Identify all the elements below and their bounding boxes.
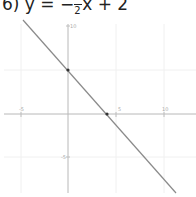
y-tick-label-neg5: -5 [61,154,66,160]
x-tick-label-neg5: -5 [19,106,24,112]
x-intercept-point [105,112,108,115]
x-tick-label-5: 5 [118,106,121,112]
coordinate-plane: -5 5 10 10 -5 [0,0,196,197]
tick-marks [21,26,164,157]
y-tick-label-10: 10 [70,23,76,29]
y-intercept-point [66,68,69,71]
plotted-line [23,20,176,193]
x-tick-label-10: 10 [162,106,168,112]
